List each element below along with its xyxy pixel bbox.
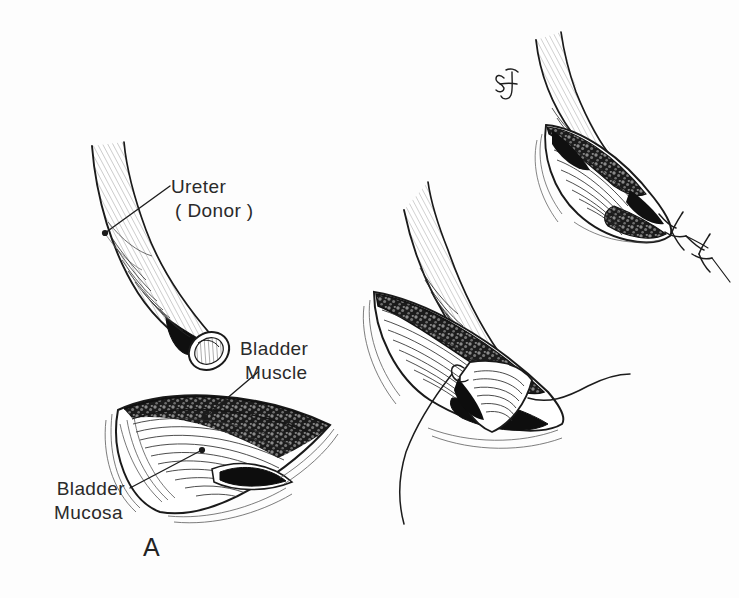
label-ureter-line1: Ureter xyxy=(171,176,226,197)
illustration-page: Ureter ( Donor ) Bladder Muscle Bladder … xyxy=(0,0,739,598)
label-bladder-mucosa-line2: Mucosa xyxy=(54,502,123,523)
panel-letter-a: A xyxy=(143,533,160,561)
label-bladder-muscle-line1: Bladder xyxy=(240,338,309,359)
label-bladder-mucosa-line1: Bladder xyxy=(57,478,126,499)
dot-bladder-muscle xyxy=(202,414,208,420)
surgical-illustration: Ureter ( Donor ) Bladder Muscle Bladder … xyxy=(0,0,739,598)
label-ureter-line2: ( Donor ) xyxy=(175,200,254,221)
dot-ureter xyxy=(102,230,108,236)
dot-bladder-mucosa xyxy=(199,447,205,453)
label-bladder-muscle-line2: Muscle xyxy=(245,362,308,383)
